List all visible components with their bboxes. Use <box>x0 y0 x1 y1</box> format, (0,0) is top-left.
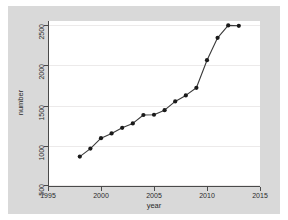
data-point <box>184 93 188 97</box>
x-tick-2010 <box>207 187 208 191</box>
x-tick-label-1995: 1995 <box>31 192 65 200</box>
y-tick-label-1500: 1500 <box>38 105 46 121</box>
data-point <box>173 99 177 103</box>
data-point <box>237 24 241 28</box>
data-point <box>110 131 114 135</box>
series-markers-number <box>78 23 241 158</box>
data-point <box>141 113 145 117</box>
data-point <box>88 147 92 151</box>
data-series-layer <box>48 21 260 186</box>
data-point <box>78 155 82 159</box>
x-tick-2015 <box>260 187 261 191</box>
data-point <box>120 126 124 130</box>
y-axis-title: number <box>16 83 25 123</box>
series-line-number <box>80 25 239 156</box>
data-point <box>216 36 220 40</box>
x-axis-title: year <box>48 201 260 210</box>
data-point <box>194 86 198 90</box>
x-tick-label-2010: 2010 <box>190 192 224 200</box>
x-tick-2005 <box>154 187 155 191</box>
x-tick-label-2000: 2000 <box>84 192 118 200</box>
x-tick-label-2005: 2005 <box>137 192 171 200</box>
x-tick-1995 <box>48 187 49 191</box>
y-tick-label-2000: 2000 <box>38 64 46 80</box>
y-tick-label-2500: 2500 <box>38 24 46 40</box>
x-tick-2000 <box>101 187 102 191</box>
data-point <box>205 58 209 62</box>
x-tick-label-2015: 2015 <box>243 192 277 200</box>
y-tick-label-1000: 1000 <box>38 145 46 161</box>
data-point <box>131 121 135 125</box>
data-point <box>152 113 156 117</box>
data-point <box>163 108 167 112</box>
data-point <box>99 136 103 140</box>
chart-figure: 2500 2000 1500 1000 500 1995 2000 2005 2… <box>8 6 280 214</box>
data-point <box>226 23 230 27</box>
